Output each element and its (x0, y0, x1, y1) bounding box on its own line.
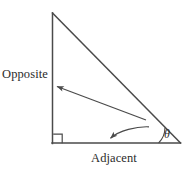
theta-angle-label: θ (164, 128, 170, 140)
adjacent-label: Adjacent (91, 152, 137, 165)
trigonometry-figure: Opposite Adjacent θ (0, 0, 190, 174)
triangle-diagram-svg (0, 0, 190, 174)
adjacent-pointer-arrow-icon (111, 127, 150, 138)
opposite-pointer-arrow-icon (57, 87, 146, 121)
opposite-label: Opposite (2, 68, 48, 81)
right-angle-marker-icon (53, 134, 62, 143)
hypotenuse-line (53, 13, 181, 143)
